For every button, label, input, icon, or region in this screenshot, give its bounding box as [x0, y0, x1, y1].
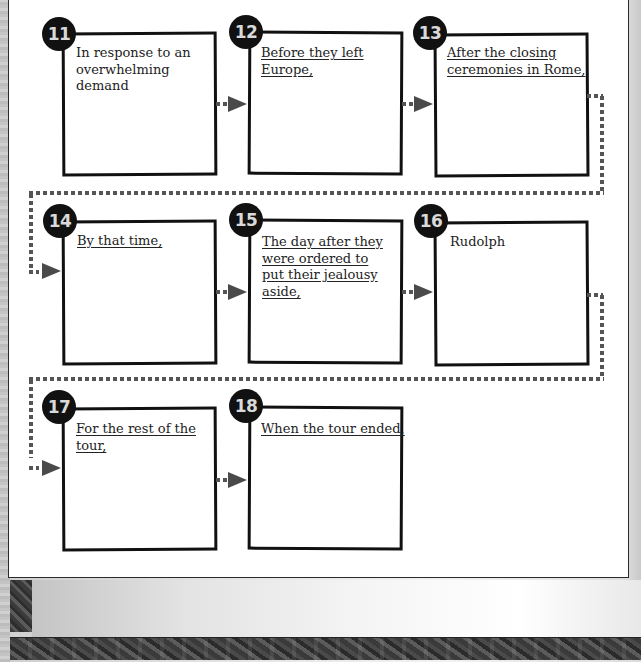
- box-prompt-text: Before they left Europe,: [261, 45, 401, 78]
- arrow-right-icon: [414, 284, 433, 300]
- arrow-right-icon: [42, 263, 61, 279]
- connector-dashed-line: [600, 96, 604, 192]
- arrow-right-icon: [228, 284, 247, 300]
- step-number-badge: 17: [42, 390, 76, 424]
- box-prompt-text: By that time,: [77, 233, 217, 250]
- connector-dashed-line: [29, 466, 39, 470]
- step-number-badge: 15: [229, 203, 263, 237]
- arrow-right-icon: [228, 472, 247, 488]
- background-texture-right: [629, 0, 641, 600]
- step-number-badge: 13: [413, 16, 447, 50]
- frame-inner-shade: [32, 580, 641, 637]
- arrow-right-icon: [228, 96, 247, 112]
- box-prompt-text: The day after they were ordered to put t…: [262, 234, 392, 300]
- box-prompt-text: When the tour ended,: [261, 421, 411, 438]
- stone-frame-left: [10, 580, 32, 632]
- connector-dashed-line: [29, 377, 604, 381]
- box-prompt-text: In response to an overwhelming demand: [76, 45, 216, 95]
- connector-dashed-line: [29, 270, 39, 274]
- step-number-badge: 16: [414, 204, 448, 238]
- step-number-badge: 18: [229, 389, 263, 423]
- connector-dashed-line: [29, 194, 33, 270]
- step-number-badge: 12: [229, 15, 263, 49]
- box-prompt-text: Rudolph: [450, 234, 580, 251]
- box-prompt-text: For the rest of the tour,: [76, 421, 226, 454]
- step-number-badge: 14: [43, 204, 77, 238]
- arrow-right-icon: [42, 460, 61, 476]
- worksheet-panel: 11 In response to an overwhelming demand…: [8, 0, 629, 578]
- connector-dashed-line: [600, 295, 604, 379]
- box-prompt-text: After the closing ceremonies in Rome,: [447, 45, 587, 78]
- step-number-badge: 11: [42, 17, 76, 51]
- arrow-right-icon: [414, 96, 433, 112]
- connector-dashed-line: [29, 380, 33, 458]
- connector-dashed-line: [29, 191, 604, 195]
- stone-frame-bottom: [10, 637, 641, 660]
